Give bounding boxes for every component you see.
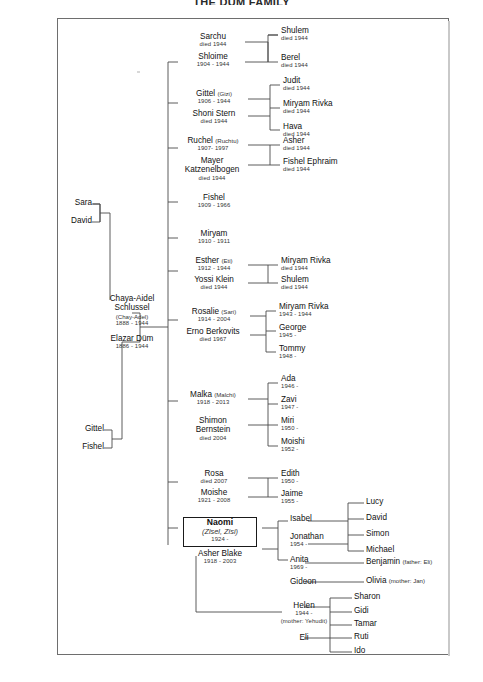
person-moishi: Moishi 1952 - [281, 437, 371, 454]
person-michael: Michael [366, 545, 476, 554]
person-isabel: Isabel [290, 514, 360, 523]
person-judit: Judit died 1944 [283, 76, 373, 93]
person-naomi-box: Naomi (Zisel, Zisi) 1924 - [183, 517, 257, 547]
person-ido: Ido [354, 646, 464, 655]
person-miryam-rivka-1: Miryam Rivka died 1944 [283, 99, 373, 116]
person-gidi: Gidi [354, 606, 464, 615]
person-eli: Eli [262, 633, 346, 642]
person-tamar: Tamar [354, 619, 464, 628]
person-ruti: Ruti [354, 632, 464, 641]
parent-mother: Chaya-Aidel Schlussel (Chay-Adel) 1888 -… [80, 294, 184, 327]
person-sharon: Sharon [354, 592, 464, 601]
person-shulem-1: Shulem died 1944 [281, 26, 371, 43]
person-rosa: Rosa died 2007 [178, 469, 250, 486]
person-rosalie: Rosalie (Sari) 1914 - 2004 [176, 307, 252, 324]
person-miryam-rivka-3: Miryam Rivka 1943 - 1944 [279, 302, 375, 319]
person-yossi-klein: Yossi Klein died 1944 [178, 275, 250, 292]
person-esther: Esther (Eti) 1912 - 1944 [178, 256, 250, 273]
ancestor-david: David [40, 216, 92, 225]
parent-father: Elazar Düm 1886 - 1944 [80, 334, 184, 351]
person-sarchu: Sarchu died 1944 [178, 32, 248, 49]
person-shoni-stern: Shoni Stern died 1944 [178, 109, 250, 126]
person-moishe: Moishe 1921 - 2008 [178, 488, 250, 505]
person-edith: Edith 1950 - [281, 469, 371, 486]
ancestor-fishel: Fishel [52, 442, 104, 451]
person-asher: Asher died 1944 [283, 136, 379, 153]
person-olivia: Olivia (mother: Jan) [366, 576, 482, 585]
person-jonathan: Jonathan 1954 - [290, 532, 360, 549]
person-tommy: Tommy 1948 - [279, 344, 375, 361]
ancestor-gittel: Gittel [52, 424, 104, 433]
person-fishel: Fishel 1909 - 1966 [178, 193, 250, 210]
person-benjamin: Benjamin (father: Eli) [366, 557, 482, 566]
person-berel: Berel died 1944 [281, 53, 371, 70]
person-ada: Ada 1946 - [281, 374, 371, 391]
person-miri: Miri 1950 - [281, 416, 371, 433]
person-jaime: Jaime 1955 - [281, 489, 371, 506]
person-simon: Simon [366, 529, 476, 538]
person-helen: Helen 1944 - (mother: Yehudit) [262, 601, 346, 625]
family-tree-chart: THE DUM FAMILY [0, 0, 483, 682]
person-shimon-bernstein: Shimon Bernstein died 2004 [176, 416, 250, 442]
person-gideon: Gideon [290, 577, 360, 586]
person-asher-blake: Asher Blake 1918 - 2003 [172, 549, 268, 566]
person-fishel-ephraim: Fishel Ephraim died 1944 [283, 157, 379, 174]
person-malka: Malka (Malchi) 1918 - 2013 [176, 390, 250, 407]
person-shloime: Shloime 1904 - 1944 [178, 52, 248, 69]
person-gittel-gizi: Gittel (Gizi) 1906 - 1944 [178, 89, 250, 106]
person-george: George 1945 - [279, 323, 375, 340]
person-anita: Anita 1969 - [290, 555, 360, 572]
ancestor-sara: Sara [40, 198, 92, 207]
person-erno-berkovits: Erno Berkovits died 1967 [172, 327, 254, 344]
person-zavi: Zavi 1947 - [281, 395, 371, 412]
person-shulem-2: Shulem died 1944 [281, 275, 377, 292]
person-lucy: Lucy [366, 497, 476, 506]
person-miryam: Miryam 1910 - 1911 [178, 229, 250, 246]
person-mayer-katzenelbogen: Mayer Katzenelbogen died 1944 [172, 156, 252, 182]
person-ruchel: Ruchel (Ruchtu) 1907- 1997 [176, 136, 250, 153]
person-david-gg: David [366, 513, 476, 522]
person-miryam-rivka-2: Miryam Rivka died 1944 [281, 256, 377, 273]
